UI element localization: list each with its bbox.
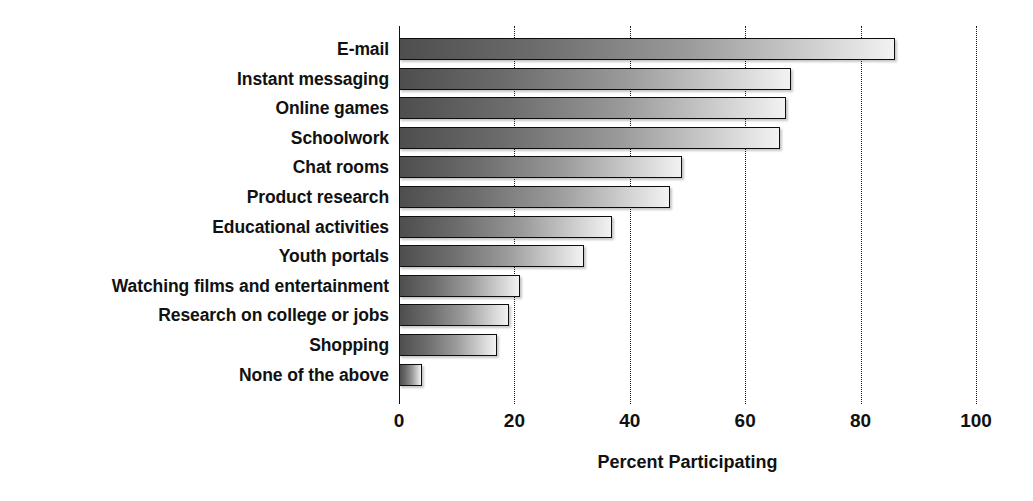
- bar-row: [399, 38, 895, 60]
- x-tick-label: 20: [504, 410, 525, 432]
- bar: [399, 156, 682, 178]
- category-label: Online games: [0, 98, 389, 119]
- bar-row: [399, 245, 584, 267]
- category-label: Educational activities: [0, 217, 389, 238]
- x-tick-label: 40: [619, 410, 640, 432]
- x-tick-label: 100: [960, 410, 992, 432]
- bar-row: [399, 364, 422, 386]
- bar-row: [399, 275, 520, 297]
- bar: [399, 334, 497, 356]
- category-label: Watching films and entertainment: [0, 276, 389, 297]
- bar: [399, 245, 584, 267]
- bar-row: [399, 186, 670, 208]
- bar-row: [399, 156, 682, 178]
- bar: [399, 216, 612, 238]
- bar: [399, 186, 670, 208]
- gridline-80: [861, 26, 862, 404]
- bar-row: [399, 97, 786, 119]
- category-label: Product research: [0, 187, 389, 208]
- bar-row: [399, 334, 497, 356]
- bar: [399, 304, 509, 326]
- bar: [399, 364, 422, 386]
- bar-row: [399, 68, 791, 90]
- category-label: Youth portals: [0, 246, 389, 267]
- x-axis-title: Percent Participating: [399, 452, 976, 473]
- category-label: Shopping: [0, 335, 389, 356]
- category-label: Instant messaging: [0, 69, 389, 90]
- bar-row: [399, 127, 780, 149]
- category-label: None of the above: [0, 365, 389, 386]
- bar: [399, 127, 780, 149]
- bar-row: [399, 304, 509, 326]
- bar: [399, 97, 786, 119]
- x-axis-ticks: 020406080100: [399, 404, 976, 444]
- category-label: Schoolwork: [0, 128, 389, 149]
- bar-row: [399, 216, 612, 238]
- x-tick-label: 60: [735, 410, 756, 432]
- gridline-100: [976, 26, 977, 404]
- category-label: Chat rooms: [0, 157, 389, 178]
- x-tick-label: 0: [394, 410, 405, 432]
- chart-figure: E-mailInstant messagingOnline gamesSchoo…: [0, 0, 1033, 501]
- category-label: E-mail: [0, 39, 389, 60]
- x-tick-label: 80: [850, 410, 871, 432]
- plot-area: [399, 26, 976, 404]
- category-label-axis: E-mailInstant messagingOnline gamesSchoo…: [0, 26, 389, 404]
- category-label: Research on college or jobs: [0, 305, 389, 326]
- bar: [399, 68, 791, 90]
- bar: [399, 38, 895, 60]
- bar: [399, 275, 520, 297]
